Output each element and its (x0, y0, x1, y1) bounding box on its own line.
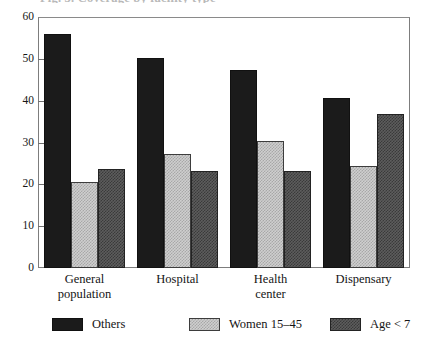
x-axis-category-labels: GeneralpopulationHospitalHealthcenterDis… (38, 272, 410, 310)
category-label-line2: center (208, 287, 333, 302)
y-tick-label: 40 (0, 95, 34, 107)
legend-label: Women 15–45 (229, 318, 302, 331)
y-tick-label: 10 (0, 220, 34, 232)
clipped-chart-title: Fig. 3. Coverage by facility type (40, 0, 340, 3)
chart-legend: OthersWomen 15–45Age < 7 (52, 318, 422, 336)
bar (257, 141, 284, 268)
y-tick-label: 60 (0, 11, 34, 23)
bar (323, 98, 350, 268)
legend-label: Age < 7 (370, 318, 410, 331)
legend-swatch (52, 318, 83, 331)
bar-chart-figure: Fig. 3. Coverage by facility type 010203… (0, 0, 428, 342)
category-label-line1: General (65, 272, 105, 286)
x-category-label: Dispensary (301, 272, 426, 287)
legend-swatch (189, 318, 220, 331)
bar (377, 114, 404, 268)
legend-item[interactable]: Age < 7 (330, 318, 410, 331)
bar (350, 166, 377, 268)
legend-item[interactable]: Women 15–45 (189, 318, 302, 331)
y-tick-label: 30 (0, 137, 34, 149)
legend-item[interactable]: Others (52, 318, 125, 331)
category-label-line1: Health (254, 272, 287, 286)
bar (98, 169, 125, 268)
category-label-line1: Hospital (156, 272, 198, 286)
category-label-line1: Dispensary (335, 272, 391, 286)
bar (284, 171, 311, 268)
bar (164, 154, 191, 268)
bar (191, 171, 218, 268)
bars-layer (38, 17, 410, 268)
bar (71, 182, 98, 268)
y-tick-label: 20 (0, 178, 34, 190)
y-tick-label: 50 (0, 53, 34, 65)
bar (137, 58, 164, 268)
bar (230, 70, 257, 268)
bar (44, 34, 71, 268)
legend-swatch (330, 318, 361, 331)
legend-label: Others (92, 318, 125, 331)
category-label-line2: population (22, 287, 147, 302)
